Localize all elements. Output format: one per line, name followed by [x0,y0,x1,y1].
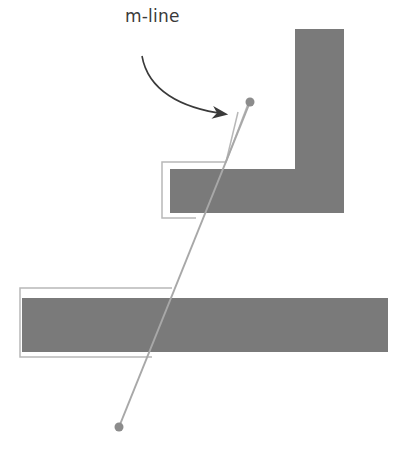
goal-point [246,98,255,107]
obstacle-bar [22,298,388,352]
start-point [115,423,124,432]
diagram-canvas [0,0,401,457]
m-line [119,102,250,427]
obstacle-l-shape [170,29,344,213]
arrow-icon [142,56,225,114]
